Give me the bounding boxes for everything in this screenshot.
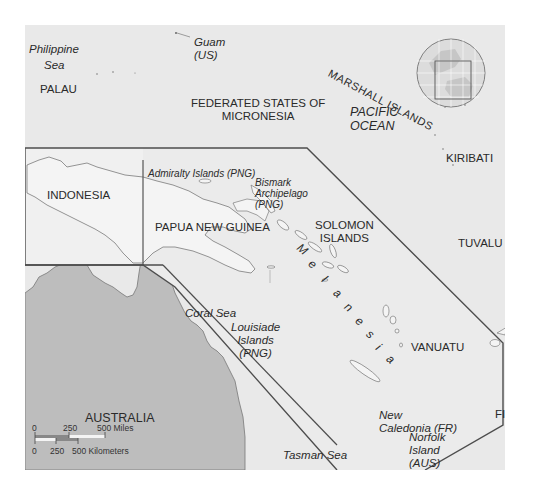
fiji-island — [497, 327, 505, 335]
guam-leader-line — [177, 33, 190, 37]
scale-km-0: 0 — [32, 446, 37, 456]
label-coral-sea: Coral Sea — [185, 307, 236, 320]
scale-miles-500: 500 Miles — [97, 423, 133, 433]
label-kiribati: KIRIBATI — [446, 152, 493, 165]
louisiade-island — [267, 266, 275, 268]
label-papua-new-guinea: PAPUA NEW GUINEA — [155, 221, 270, 234]
label-solomon-islands: SOLOMON ISLANDS — [315, 219, 374, 245]
label-norfolk-island: Norfolk Island (AUS) — [409, 431, 445, 470]
label-fiji: FIJI — [495, 408, 505, 421]
scale-km-250: 250 — [50, 446, 64, 456]
label-palau: PALAU — [40, 83, 77, 96]
label-admiralty-islands: Admiralty Islands (PNG) — [148, 168, 255, 179]
scale-km-500: 500 Kilometers — [72, 446, 129, 456]
label-tuvalu: TUVALU — [458, 237, 503, 250]
scale-miles-250: 250 — [63, 423, 77, 433]
map-graphics — [25, 25, 505, 470]
label-indonesia: INDONESIA — [47, 189, 110, 202]
vanuatu-island — [400, 343, 403, 347]
label-philippine-sea: Philippine Sea — [29, 43, 79, 72]
locator-globe — [417, 39, 485, 107]
admiralty-island — [199, 179, 211, 183]
vanuatu-island — [383, 305, 389, 317]
vanuatu-island — [395, 329, 399, 333]
label-pacific-ocean: PACIFIC OCEAN — [350, 105, 398, 133]
label-guam: Guam (US) — [194, 36, 225, 62]
fiji-island — [490, 340, 500, 347]
label-tasman-sea: Tasman Sea — [283, 449, 347, 462]
map-frame: Philippine Sea PALAU Guam (US) FEDERATED… — [25, 25, 505, 470]
label-bismark-archipelago: Bismark Archipelago (PNG) — [255, 177, 308, 210]
vanuatu-island — [390, 316, 396, 324]
label-vanuatu: VANUATU — [411, 341, 464, 354]
label-micronesia: FEDERATED STATES OF MICRONESIA — [191, 97, 325, 123]
guam-dot — [175, 32, 177, 34]
label-louisiade-islands: Louisiade Islands (PNG) — [231, 321, 280, 360]
scale-miles-0: 0 — [32, 423, 37, 433]
